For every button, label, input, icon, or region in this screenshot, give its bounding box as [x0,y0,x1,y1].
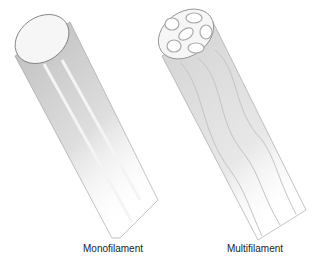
multifilament-illustration [149,0,306,240]
monofilament-illustration [6,4,158,238]
filament-comparison-figure: Monofilament Multifilament [0,0,320,267]
multifilament-label: Multifilament [195,243,315,254]
monofilament-label: Monofilament [53,243,173,254]
filament-illustrations [0,0,320,267]
